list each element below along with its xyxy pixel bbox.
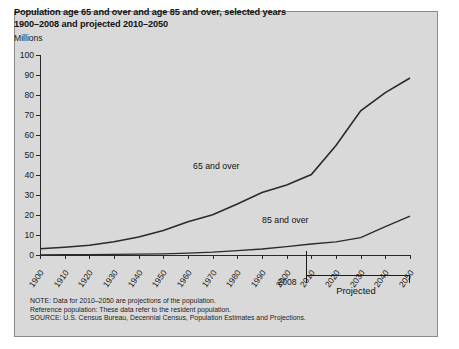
footnote-note: NOTE: Data for 2010–2050 are projections…	[30, 297, 430, 306]
series-label-85-and-over: 85 and over	[262, 215, 308, 225]
x-axis-tick	[65, 255, 66, 259]
line-85-and-over	[40, 216, 410, 255]
projected-label: Projected	[336, 285, 376, 296]
series-lines	[40, 55, 410, 255]
x-axis-tick	[336, 255, 337, 259]
x-axis-tick	[163, 255, 164, 259]
footnote-source: SOURCE: U.S. Census Bureau, Decennial Ce…	[30, 314, 430, 323]
x-axis-tick	[361, 255, 362, 259]
y-axis-tick-label: 20	[24, 210, 34, 220]
plot-area: 0102030405060708090100 19001910192019301…	[40, 55, 410, 265]
chart-title: Population age 65 and over and age 85 an…	[14, 6, 384, 30]
y-axis-tick-label: 90	[24, 70, 34, 80]
x-axis-tick	[311, 255, 312, 259]
y-axis-tick-labels: 0102030405060708090100	[2, 55, 34, 255]
x-axis-tick	[40, 255, 41, 259]
y-axis-tick-label: 10	[24, 230, 34, 240]
x-axis-tick	[287, 255, 288, 259]
series-label-65-and-over: 65 and over	[193, 161, 239, 171]
x-axis-tick	[385, 255, 386, 259]
y-axis-tick-label: 100	[20, 50, 34, 60]
projected-bracket	[306, 275, 410, 283]
x-axis-tick	[89, 255, 90, 259]
x-axis-tick	[410, 255, 411, 259]
x-axis-tick	[213, 255, 214, 259]
y-axis-tick-label: 70	[24, 110, 34, 120]
year-2008-label: 2008	[277, 277, 296, 287]
x-axis-tick	[237, 255, 238, 259]
chart-title-line-1: Population age 65 and over and age 85 an…	[14, 7, 286, 17]
y-axis-tick-label: 30	[24, 190, 34, 200]
x-axis-tick	[188, 255, 189, 259]
x-axis-tick	[139, 255, 140, 259]
y-axis-tick-label: 40	[24, 170, 34, 180]
x-axis-tick	[262, 255, 263, 259]
x-axis-tick	[114, 255, 115, 259]
y-axis-tick-label: 80	[24, 90, 34, 100]
y-axis-tick-label: 0	[29, 250, 34, 260]
y-axis-tick-label: 60	[24, 130, 34, 140]
chart-title-line-2: 1900–2008 and projected 2010–2050	[14, 18, 384, 30]
year-2008-marker-line	[306, 251, 307, 275]
footnote-reference-population: Reference population: These data refer t…	[30, 306, 430, 315]
footnotes: NOTE: Data for 2010–2050 are projections…	[30, 297, 430, 323]
y-axis-tick-label: 50	[24, 150, 34, 160]
y-axis-unit-label: Millions	[14, 33, 43, 43]
